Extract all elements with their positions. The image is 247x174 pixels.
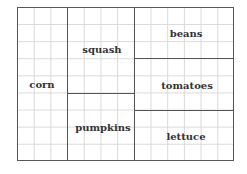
region-corn-label: corn (29, 79, 54, 90)
region-pumpkins-label: pumpkins (75, 122, 130, 133)
divider-corn-squash (67, 7, 68, 161)
region-tomatoes-label: tomatoes (161, 80, 213, 91)
divider-middle-right (134, 7, 135, 161)
divider-beans-tomatoes (135, 58, 234, 59)
region-lettuce-label: lettuce (166, 131, 205, 142)
region-beans-label: beans (170, 28, 203, 39)
divider-tomatoes-lettuce (135, 110, 234, 111)
divider-squash-pumpkins (68, 93, 135, 94)
region-squash-label: squash (82, 44, 121, 55)
